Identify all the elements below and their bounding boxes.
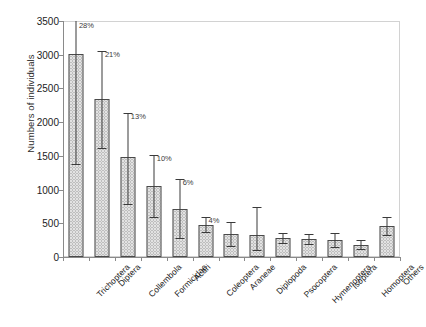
bar-group: 4% (193, 21, 219, 257)
y-tick-label: 1500 (0, 150, 59, 161)
error-bar-line (231, 222, 232, 246)
y-tick-label: 2000 (0, 117, 59, 128)
bar-series: 28%21%13%10%6%4% (63, 21, 400, 257)
error-bar-cap-lower (71, 164, 80, 165)
error-bar-cap-upper (253, 207, 262, 208)
x-tick-mark (270, 257, 271, 261)
x-tick-mark (141, 257, 142, 261)
error-bar-cap-lower (253, 250, 262, 251)
bar-group (374, 21, 400, 257)
y-tick-label: 3500 (0, 16, 59, 27)
bar-group (270, 21, 296, 257)
bar-group (322, 21, 348, 257)
error-bar-cap-upper (383, 217, 392, 218)
error-bar-cap-lower (97, 148, 106, 149)
y-tick-label: 3000 (0, 49, 59, 60)
bar-group: 6% (167, 21, 193, 257)
error-bar-line (205, 217, 206, 232)
x-tick-mark (296, 257, 297, 261)
error-bar-line (179, 179, 180, 239)
bar-group (219, 21, 245, 257)
error-bar-line (101, 51, 102, 148)
y-tick-label: 0 (0, 252, 59, 263)
error-bar-cap-lower (149, 217, 158, 218)
bar-group (348, 21, 374, 257)
y-axis-title: Numbers of individuals (25, 4, 36, 204)
error-bar-line (361, 240, 362, 248)
error-bar-cap-lower (201, 232, 210, 233)
x-tick-mark (374, 257, 375, 261)
bar-group (244, 21, 270, 257)
x-tick-mark (348, 257, 349, 261)
x-tick-mark (322, 257, 323, 261)
error-bar-cap-lower (227, 246, 236, 247)
error-bar-line (153, 155, 154, 218)
error-bar-cap-lower (331, 247, 340, 248)
bar-group (296, 21, 322, 257)
x-tick-mark (167, 257, 168, 261)
error-bar-cap-upper (331, 233, 340, 234)
error-bar-line (335, 233, 336, 246)
bar-group: 13% (115, 21, 141, 257)
error-bar-cap-lower (383, 235, 392, 236)
bar-group: 28% (63, 21, 89, 257)
x-tick-mark (400, 257, 401, 261)
error-bar-cap-lower (123, 204, 132, 205)
y-tick-label: 1000 (0, 184, 59, 195)
error-bar-line (127, 113, 128, 204)
error-bar-line (257, 207, 258, 250)
error-bar-cap-upper (305, 234, 314, 235)
error-bar-cap-upper (227, 222, 236, 223)
error-bar-cap-lower (305, 244, 314, 245)
error-bar-cap-lower (279, 243, 288, 244)
bar-group: 21% (89, 21, 115, 257)
error-bar-line (387, 217, 388, 235)
error-bar-line (309, 234, 310, 244)
error-bar-cap-upper (357, 240, 366, 241)
bar-group: 10% (141, 21, 167, 257)
error-bar-line (75, 21, 76, 164)
x-tick-mark (193, 257, 194, 261)
x-axis-line (63, 257, 400, 258)
x-tick-mark (89, 257, 90, 261)
error-bar-cap-lower (175, 238, 184, 239)
x-axis-labels: TrichopteraDipteraCollembolaFormicidaeAc… (63, 262, 400, 327)
x-tick-mark (63, 257, 64, 261)
x-tick-mark (219, 257, 220, 261)
y-tick-label: 2500 (0, 83, 59, 94)
error-bar-cap-lower (357, 249, 366, 250)
x-tick-mark (115, 257, 116, 261)
y-tick-label: 500 (0, 218, 59, 229)
error-bar-cap-upper (279, 233, 288, 234)
error-bar-line (283, 233, 284, 243)
x-tick-mark (244, 257, 245, 261)
